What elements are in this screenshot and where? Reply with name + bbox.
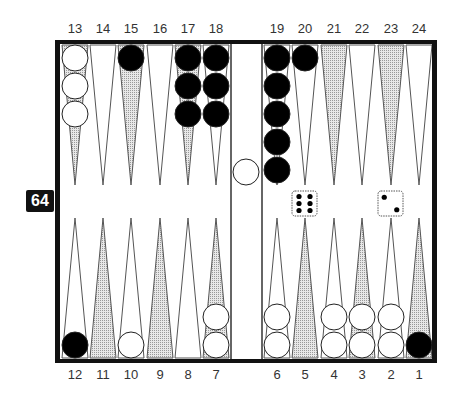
white-checker[interactable]: [118, 332, 144, 358]
black-checker[interactable]: [406, 332, 432, 358]
white-checker[interactable]: [378, 304, 404, 330]
point-label-24: 24: [407, 21, 431, 36]
board-top-border: [55, 40, 437, 44]
point-label-6: 6: [265, 367, 289, 382]
black-checker[interactable]: [203, 73, 229, 99]
point-label-22: 22: [350, 21, 374, 36]
black-checker[interactable]: [175, 45, 201, 71]
black-checker[interactable]: [264, 73, 290, 99]
point-label-14: 14: [91, 21, 115, 36]
point-label-7: 7: [204, 367, 228, 382]
die-2[interactable]: [378, 191, 403, 216]
doubling-cube[interactable]: 64: [26, 190, 54, 212]
point-label-8: 8: [176, 367, 200, 382]
point-label-10: 10: [119, 367, 143, 382]
black-checker[interactable]: [118, 45, 144, 71]
point-label-19: 19: [265, 21, 289, 36]
point-label-13: 13: [63, 21, 87, 36]
black-checker[interactable]: [62, 332, 88, 358]
black-checker[interactable]: [175, 73, 201, 99]
white-checker[interactable]: [349, 332, 375, 358]
white-checker[interactable]: [62, 73, 88, 99]
white-checker[interactable]: [264, 332, 290, 358]
black-checker[interactable]: [264, 129, 290, 155]
point-label-16: 16: [148, 21, 172, 36]
black-checker[interactable]: [203, 101, 229, 127]
point-label-5: 5: [293, 367, 317, 382]
white-checker[interactable]: [203, 332, 229, 358]
point-label-17: 17: [176, 21, 200, 36]
white-checker[interactable]: [62, 45, 88, 71]
white-checker[interactable]: [62, 101, 88, 127]
black-checker[interactable]: [264, 157, 290, 183]
point-label-9: 9: [148, 367, 172, 382]
white-checker[interactable]: [264, 304, 290, 330]
black-checker[interactable]: [264, 45, 290, 71]
die-1[interactable]: [292, 191, 317, 216]
white-checker[interactable]: [203, 304, 229, 330]
black-checker[interactable]: [175, 101, 201, 127]
white-checker[interactable]: [321, 332, 347, 358]
point-label-23: 23: [379, 21, 403, 36]
board-right-border: [432, 40, 437, 363]
point-label-12: 12: [63, 367, 87, 382]
point-label-18: 18: [204, 21, 228, 36]
point-label-21: 21: [322, 21, 346, 36]
board-bottom-border: [55, 359, 437, 363]
point-label-15: 15: [119, 21, 143, 36]
white-checker[interactable]: [378, 332, 404, 358]
point-label-1: 1: [407, 367, 431, 382]
point-label-4: 4: [322, 367, 346, 382]
point-label-11: 11: [91, 367, 115, 382]
point-label-20: 20: [293, 21, 317, 36]
black-checker[interactable]: [264, 101, 290, 127]
black-checker[interactable]: [203, 45, 229, 71]
white-checker[interactable]: [321, 304, 347, 330]
point-label-3: 3: [350, 367, 374, 382]
board-left-border: [55, 40, 60, 363]
point-label-2: 2: [379, 367, 403, 382]
white-checker[interactable]: [349, 304, 375, 330]
white-checker-on-bar[interactable]: [233, 159, 259, 185]
black-checker[interactable]: [292, 45, 318, 71]
